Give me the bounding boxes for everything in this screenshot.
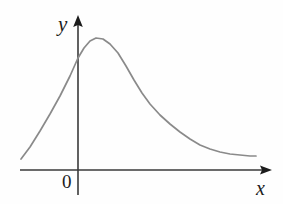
figure-container: y x 0: [0, 0, 283, 204]
y-axis-label: y: [58, 14, 67, 35]
curve-line: [21, 38, 256, 159]
y-axis: [73, 15, 83, 195]
x-axis-label: x: [256, 178, 265, 198]
origin-label: 0: [62, 172, 72, 191]
x-axis: [20, 165, 272, 174]
plot-svg: [0, 0, 283, 204]
